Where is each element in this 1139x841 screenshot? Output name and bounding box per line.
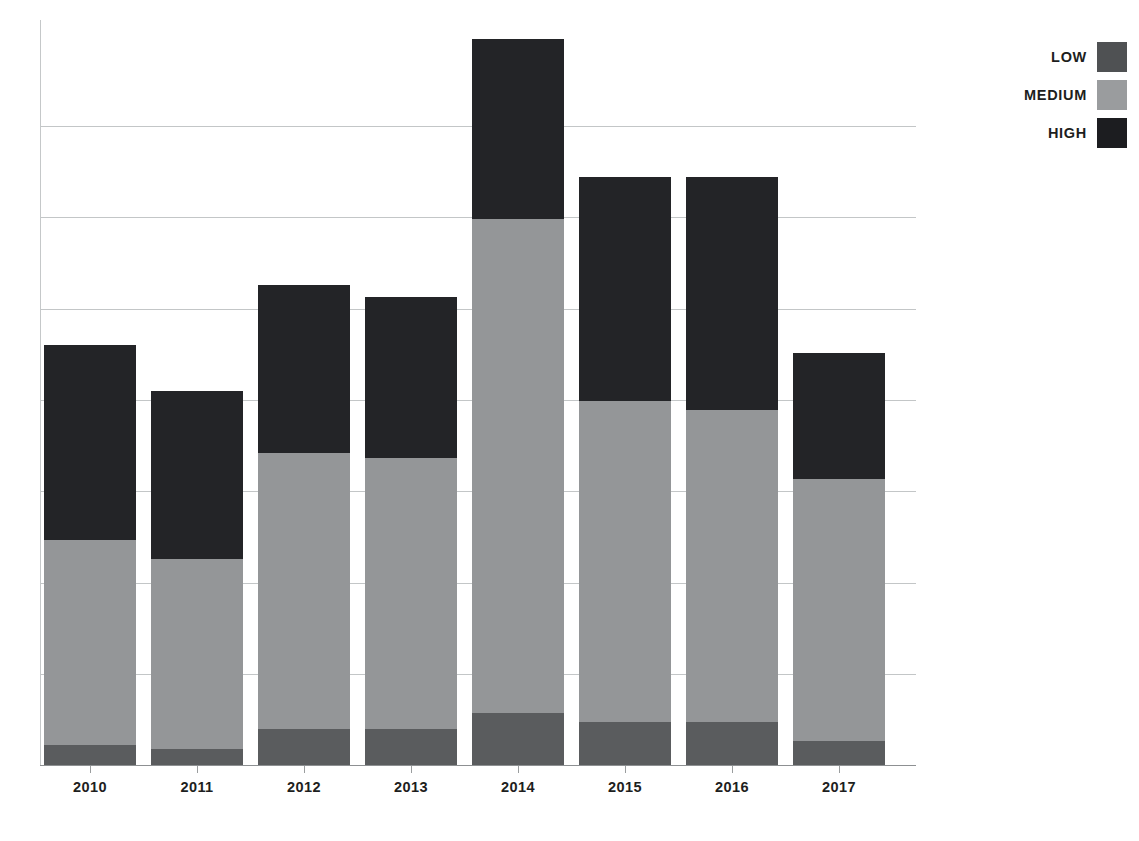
bar-segment-low[interactable] — [579, 722, 671, 766]
x-axis-label-2013: 2013 — [365, 779, 457, 795]
legend-item-medium[interactable]: MEDIUM — [952, 76, 1127, 114]
y-axis-line — [40, 20, 41, 766]
x-tick — [625, 766, 626, 773]
legend-item-low[interactable]: LOW — [952, 38, 1127, 76]
x-axis-label-2017: 2017 — [793, 779, 885, 795]
x-axis-label-2010: 2010 — [44, 779, 136, 795]
bar-segment-low[interactable] — [44, 745, 136, 766]
bar-stack — [365, 297, 457, 766]
x-axis-label-2011: 2011 — [151, 779, 243, 795]
chart-legend: LOW MEDIUM HIGH — [952, 38, 1127, 152]
bar-segment-high[interactable] — [579, 177, 671, 401]
bar-segment-high[interactable] — [793, 353, 885, 479]
bar-group-2015[interactable] — [579, 177, 671, 766]
bar-stack — [579, 177, 671, 766]
bar-group-2014[interactable] — [472, 39, 564, 766]
bar-group-2011[interactable] — [151, 391, 243, 766]
x-tick — [839, 766, 840, 773]
bar-segment-low[interactable] — [793, 741, 885, 766]
x-tick — [732, 766, 733, 773]
bar-segment-medium[interactable] — [686, 410, 778, 722]
x-tick — [90, 766, 91, 773]
x-axis-label-2016: 2016 — [686, 779, 778, 795]
bar-stack — [472, 39, 564, 766]
x-tick — [304, 766, 305, 773]
bar-segment-medium[interactable] — [151, 559, 243, 749]
bar-stack — [793, 353, 885, 766]
bar-segment-low[interactable] — [686, 722, 778, 766]
bar-segment-high[interactable] — [44, 345, 136, 540]
bar-group-2012[interactable] — [258, 285, 350, 766]
legend-item-high[interactable]: HIGH — [952, 114, 1127, 152]
legend-label-low: LOW — [1051, 49, 1087, 65]
bar-segment-high[interactable] — [686, 177, 778, 410]
legend-label-medium: MEDIUM — [1024, 87, 1087, 103]
stacked-bar-chart: 2010 2011 2012 2013 2014 2015 2016 2017 … — [0, 0, 1139, 841]
bar-group-2010[interactable] — [44, 345, 136, 766]
bar-segment-low[interactable] — [365, 729, 457, 766]
x-axis-label-2012: 2012 — [258, 779, 350, 795]
bar-group-2017[interactable] — [793, 353, 885, 766]
bar-segment-high[interactable] — [258, 285, 350, 453]
legend-swatch-high-icon — [1097, 118, 1127, 148]
bar-stack — [151, 391, 243, 766]
bar-segment-medium[interactable] — [258, 453, 350, 729]
x-axis-label-2015: 2015 — [579, 779, 671, 795]
plot-area — [40, 20, 916, 766]
bar-segment-high[interactable] — [151, 391, 243, 559]
legend-swatch-medium-icon — [1097, 80, 1127, 110]
bar-stack — [44, 345, 136, 766]
bar-group-2016[interactable] — [686, 177, 778, 766]
bar-segment-medium[interactable] — [472, 219, 564, 713]
x-tick — [411, 766, 412, 773]
bar-segment-low[interactable] — [258, 729, 350, 766]
bar-stack — [686, 177, 778, 766]
bar-segment-medium[interactable] — [793, 479, 885, 741]
bar-segment-medium[interactable] — [44, 540, 136, 745]
x-tick — [518, 766, 519, 773]
bar-segment-high[interactable] — [472, 39, 564, 219]
bar-segment-low[interactable] — [151, 749, 243, 766]
legend-label-high: HIGH — [1048, 125, 1087, 141]
bar-stack — [258, 285, 350, 766]
bar-segment-medium[interactable] — [365, 458, 457, 729]
bar-segment-medium[interactable] — [579, 401, 671, 722]
x-axis-label-2014: 2014 — [472, 779, 564, 795]
legend-swatch-low-icon — [1097, 42, 1127, 72]
x-axis-line — [40, 765, 916, 766]
x-tick — [197, 766, 198, 773]
bar-segment-low[interactable] — [472, 713, 564, 766]
bar-segment-high[interactable] — [365, 297, 457, 458]
bar-group-2013[interactable] — [365, 297, 457, 766]
